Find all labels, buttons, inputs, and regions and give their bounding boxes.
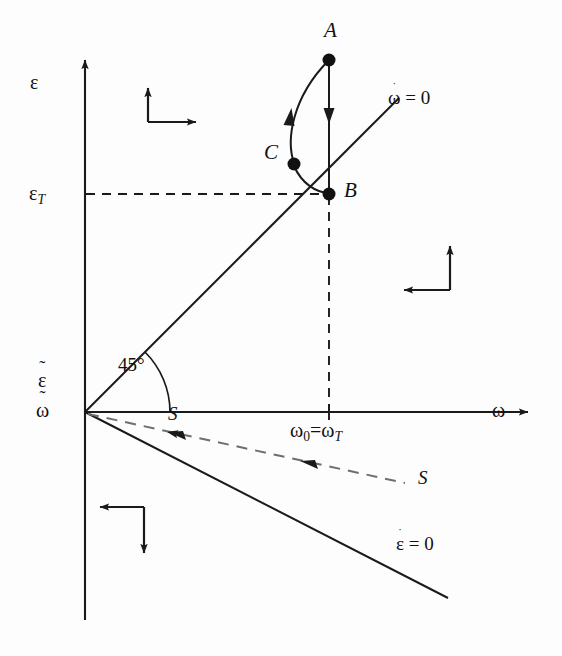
trajectory-C-to-A-arrowhead [284,108,295,126]
phase-plane-figure: ε ω εT ˜ ε ˜ ω ω0=ωT 45° ̇ ω = 0 ̇ ε = 0… [0,0,562,656]
omega-0-subscript: 0 [303,429,310,444]
epsilon-dot-nullcline-line [85,412,448,598]
quadrant-marker-upper-left [148,88,196,122]
separatrix-arrowhead-near [168,431,186,440]
epsilon-threshold-subscript: T [37,192,45,207]
angle-arc-45 [145,352,170,412]
y-axis-label: ε [30,72,38,92]
omega-dot-equals-zero: = 0 [405,87,430,108]
epsilon-threshold-label: εT [29,183,45,207]
x-axis-label: ω [492,400,505,420]
point-B-dot [323,188,336,201]
separatrix-line [88,414,405,483]
separatrix-arrowhead-far [300,460,318,469]
angle-45-label: 45° [118,355,145,374]
omega-equals-sign: = [310,419,321,441]
epsilon-dot-equals-zero: = 0 [409,533,434,554]
trajectory-C-to-A [291,61,328,163]
diagram-canvas [0,0,562,656]
trajectory-group [284,54,336,201]
separatrix-label-far: S [418,468,428,487]
tilde-accent-omega: ˜ [40,389,46,407]
epsilon-dot-base: ε [396,533,404,554]
separatrix-label-near: S [168,404,178,423]
omega-0-equals-omega-T-label: ω0=ωT [290,420,342,444]
origin-label-omega-tilde: ˜ ω [36,400,49,420]
omega-dot-base: ω [388,87,401,108]
point-A-dot [323,54,336,67]
tilde-accent-epsilon: ˜ [39,359,45,377]
separatrix-group [88,414,405,483]
axis-group [85,60,528,620]
omega-T-subscript: T [334,429,342,444]
point-C-label: C [264,142,278,163]
quadrant-marker-lower-left [100,507,144,553]
epsilon-dot-nullcline-label: ̇ ε = 0 [396,534,434,553]
trajectory-B-to-C [294,166,328,193]
point-B-label: B [344,180,357,201]
quadrant-marker-right [404,246,450,290]
threshold-guides [86,194,329,420]
point-A-label: A [324,20,337,41]
omega-0-base: ω [290,419,303,441]
trajectory-A-to-B-arrowhead [324,108,335,124]
point-C-dot [288,158,301,171]
omega-dot-nullcline-label: ̇ ω = 0 [388,88,430,107]
omega-T-base: ω [321,419,334,441]
